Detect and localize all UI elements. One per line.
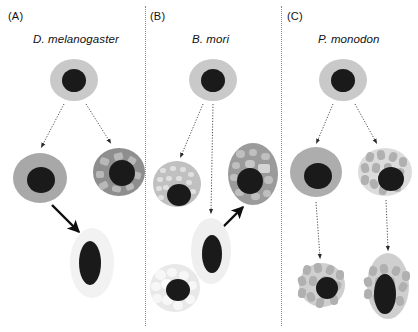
nucleus bbox=[167, 184, 191, 206]
granule bbox=[402, 271, 410, 281]
plasmatocyte-drosophila bbox=[13, 153, 67, 203]
arrow-stem-to-crystal-drosophila bbox=[86, 104, 110, 142]
arrow-stem-to-semigranular-penaeus bbox=[355, 104, 376, 142]
arrow-stem-to-oenocytoid-bombyx bbox=[211, 104, 213, 212]
granule bbox=[111, 185, 121, 192]
granule bbox=[97, 180, 108, 190]
nucleus bbox=[331, 69, 355, 92]
nucleus bbox=[374, 274, 396, 314]
granule bbox=[180, 167, 186, 172]
granule bbox=[166, 176, 172, 181]
granule bbox=[361, 175, 370, 186]
granule bbox=[176, 176, 182, 181]
granule bbox=[263, 190, 271, 197]
lamellocyte-drosophila bbox=[70, 228, 114, 298]
granule bbox=[249, 149, 257, 156]
granule bbox=[376, 149, 386, 160]
granule bbox=[261, 153, 270, 160]
nucleus bbox=[378, 167, 404, 191]
granule bbox=[306, 291, 317, 303]
granule bbox=[186, 180, 192, 185]
arrow-plasmatocyte-to-spherulocyte-bombyx bbox=[222, 207, 243, 228]
nucleus bbox=[201, 69, 225, 92]
granule bbox=[170, 166, 176, 171]
granule bbox=[157, 177, 163, 182]
nucleus bbox=[304, 163, 332, 189]
arrow-hyaline-to-granular-penaeus bbox=[316, 202, 320, 257]
granular-cell-penaeus bbox=[299, 263, 345, 307]
granule bbox=[395, 295, 404, 306]
plasmatocyte-bombyx bbox=[191, 218, 231, 284]
figure-canvas: (A)D. melanogaster(B)B. mori(C)P. monodo… bbox=[0, 0, 418, 332]
granule bbox=[363, 276, 373, 288]
semigranular-cell-penaeus bbox=[358, 148, 412, 196]
arrow-plasmatocyte-to-lamellocyte-drosophila bbox=[52, 205, 79, 232]
granule bbox=[397, 281, 408, 293]
granule bbox=[156, 186, 162, 191]
granule bbox=[364, 289, 373, 300]
species-label-2: P. monodon bbox=[318, 33, 380, 45]
granule bbox=[96, 171, 104, 178]
granule bbox=[167, 268, 177, 277]
granule bbox=[399, 157, 407, 167]
nucleus bbox=[202, 235, 222, 273]
arrow-stem-to-plasmatocyte-drosophila bbox=[42, 104, 64, 146]
granule bbox=[368, 265, 378, 277]
granule bbox=[173, 301, 183, 310]
granule bbox=[158, 195, 164, 200]
arrow-semigranular-to-elongated-penaeus bbox=[386, 200, 388, 249]
panel-divider-c bbox=[281, 6, 282, 326]
granule bbox=[365, 151, 375, 163]
panel-letter-1: (B) bbox=[150, 10, 165, 22]
granule bbox=[245, 160, 255, 168]
granule bbox=[264, 176, 273, 184]
panel-letter-2: (C) bbox=[287, 10, 303, 22]
granule bbox=[302, 264, 312, 276]
granule bbox=[315, 297, 325, 308]
nucleus bbox=[27, 167, 55, 193]
nucleus bbox=[166, 279, 190, 301]
granule bbox=[379, 263, 389, 274]
species-label-1: B. mori bbox=[192, 33, 229, 45]
nucleus bbox=[62, 69, 86, 92]
granule bbox=[391, 265, 402, 277]
granule bbox=[188, 172, 194, 177]
crystal-cell-drosophila bbox=[93, 148, 145, 196]
oenocytoid-bombyx bbox=[150, 264, 200, 312]
arrow-stem-to-hyaline-penaeus bbox=[317, 104, 333, 142]
granule bbox=[232, 162, 240, 169]
granule bbox=[258, 164, 270, 173]
nucleus bbox=[109, 160, 135, 186]
granule bbox=[313, 262, 323, 273]
species-label-0: D. melanogaster bbox=[33, 33, 119, 45]
granule bbox=[360, 162, 370, 174]
panel-divider-b bbox=[145, 6, 146, 326]
granule bbox=[298, 288, 307, 299]
nucleus bbox=[237, 168, 263, 194]
elongated-granular-cell-penaeus bbox=[367, 253, 409, 319]
stem-cell-bombyx bbox=[189, 59, 237, 101]
granule bbox=[160, 168, 166, 173]
panel-letter-0: (A) bbox=[8, 10, 23, 22]
granule bbox=[151, 282, 161, 291]
stem-cell-drosophila bbox=[50, 59, 98, 101]
nucleus bbox=[79, 241, 101, 285]
hyaline-cell-penaeus bbox=[290, 147, 342, 197]
granule bbox=[99, 156, 110, 166]
granule bbox=[336, 270, 344, 280]
granule bbox=[236, 150, 245, 158]
granule bbox=[179, 271, 189, 280]
stem-cell-penaeus bbox=[319, 59, 367, 101]
spherulocyte-bombyx bbox=[228, 143, 278, 205]
nucleus bbox=[316, 277, 338, 299]
granule bbox=[325, 264, 336, 276]
granule bbox=[152, 294, 162, 303]
granule bbox=[388, 151, 399, 163]
arrow-stem-to-granulocyte-bombyx bbox=[181, 104, 203, 156]
granule bbox=[297, 275, 307, 287]
granulocyte-bombyx bbox=[153, 161, 201, 207]
